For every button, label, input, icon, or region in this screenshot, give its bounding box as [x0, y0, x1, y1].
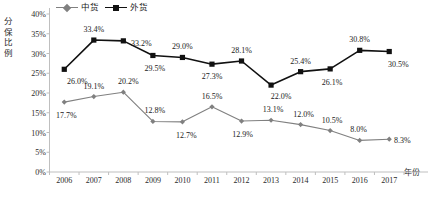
data-label: 28.1% [231, 46, 252, 55]
data-label: 30.5% [388, 59, 409, 68]
data-label: 12.8% [145, 106, 166, 115]
data-label: 8.0% [350, 125, 367, 134]
data-point-marker [91, 37, 96, 42]
data-label: 33.4% [83, 25, 104, 34]
data-point-marker [180, 119, 185, 124]
data-label: 27.3% [202, 72, 223, 81]
data-label: 26.1% [322, 77, 343, 86]
data-point-marker [298, 122, 303, 127]
data-point-marker [328, 128, 333, 133]
data-point-marker [91, 94, 96, 99]
data-label: 33.2% [131, 38, 152, 47]
data-point-marker [387, 49, 392, 54]
data-point-marker [387, 137, 392, 142]
data-label: 12.0% [293, 109, 314, 118]
data-label: 16.5% [202, 91, 223, 100]
data-label: 22.0% [271, 92, 292, 101]
chart-container: 分 保 比 例 中货 外货 0%5%10%15%20%25%30%35%40% … [0, 0, 435, 208]
data-label: 12.7% [176, 130, 197, 139]
data-point-marker [209, 104, 214, 109]
data-point-marker [121, 38, 126, 43]
data-point-marker [357, 138, 362, 143]
data-label: 29.5% [145, 64, 166, 73]
data-point-marker [357, 48, 362, 53]
data-label: 25.4% [290, 56, 311, 65]
data-point-marker [239, 58, 244, 63]
data-label: 10.5% [322, 115, 343, 124]
data-label: 8.3% [394, 136, 411, 145]
data-label: 29.0% [172, 42, 193, 51]
data-label: 26.0% [67, 77, 88, 86]
data-point-marker [298, 69, 303, 74]
data-point-marker [209, 62, 214, 67]
data-point-marker [268, 118, 273, 123]
data-point-marker [268, 83, 273, 88]
data-label: 30.8% [349, 35, 370, 44]
data-point-marker [328, 66, 333, 71]
data-label: 17.7% [56, 111, 77, 120]
data-label: 12.9% [232, 130, 253, 139]
data-point-marker [150, 53, 155, 58]
data-point-marker [180, 55, 185, 60]
data-label: 13.1% [263, 105, 284, 114]
data-point-marker [239, 118, 244, 123]
data-label: 20.2% [118, 77, 139, 86]
data-point-marker [62, 67, 67, 72]
data-point-marker [62, 99, 67, 104]
plot-area [0, 0, 435, 208]
